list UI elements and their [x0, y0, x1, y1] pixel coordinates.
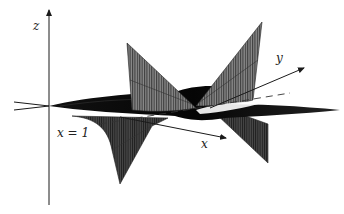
y-axis-label: y: [275, 51, 283, 65]
origin-stub-lines: [14, 102, 49, 110]
annotation-x-equals-1: x = 1: [57, 126, 89, 140]
surface-wing-upper-left: [127, 43, 196, 111]
z-axis-label: z: [32, 19, 40, 33]
surface-diagram: z y x x = 1: [0, 0, 344, 214]
surface-wing-lower-right: [215, 113, 268, 163]
surface-dark-band: [49, 86, 340, 120]
x-axis-label: x: [201, 137, 208, 151]
surface-wing-upper-right: [196, 22, 262, 106]
